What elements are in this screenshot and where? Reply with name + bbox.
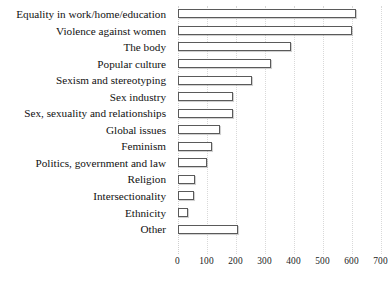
bar-row [178,138,381,155]
bar-row [178,72,381,89]
category-label: Politics, government and law [0,155,172,172]
bar [178,175,195,184]
bar-series [178,6,381,238]
bar [178,76,253,85]
bar [178,158,207,167]
bar-row [178,205,381,222]
category-label: Ethnicity [0,205,172,222]
value-axis: 0100200300400500600700 [178,256,381,276]
bar-row [178,221,381,238]
value-tick-label: 500 [315,256,330,266]
bar-row [178,188,381,205]
category-label: Intersectionality [0,188,172,205]
category-label: Sex, sexuality and relationships [0,105,172,122]
bar-row [178,89,381,106]
value-tick-label: 600 [344,256,359,266]
category-label: Sexism and stereotyping [0,72,172,89]
category-label: Other [0,221,172,238]
bar [178,9,356,18]
bar [178,26,352,35]
category-label: Feminism [0,138,172,155]
bar-row [178,6,381,23]
category-label: Religion [0,171,172,188]
bar [178,109,233,118]
category-label: Popular culture [0,56,172,73]
bar [178,208,188,217]
bar-row [178,105,381,122]
bar-row [178,39,381,56]
bar [178,191,195,200]
bar [178,142,212,151]
bar [178,125,221,134]
value-tick-label: 200 [228,256,243,266]
value-tick-label: 300 [257,256,272,266]
bar-row [178,155,381,172]
category-label: Equality in work/home/education [0,6,172,23]
category-label: Violence against women [0,23,172,40]
plot-area [178,6,381,254]
value-tick-label: 700 [373,256,388,266]
gridline [381,6,383,254]
category-axis-labels: Equality in work/home/educationViolence … [0,6,172,238]
bar-row [178,23,381,40]
value-tick-label: 400 [286,256,301,266]
bar-row [178,171,381,188]
bar-row [178,122,381,139]
bar [178,59,271,68]
bar [178,92,233,101]
value-tick-label: 100 [199,256,214,266]
category-label: The body [0,39,172,56]
category-label: Global issues [0,122,172,139]
bar [178,225,238,234]
bar-chart: Equality in work/home/educationViolence … [0,0,389,282]
bar-row [178,56,381,73]
bar [178,42,292,51]
category-label: Sex industry [0,89,172,106]
value-tick-label: 0 [175,256,180,266]
